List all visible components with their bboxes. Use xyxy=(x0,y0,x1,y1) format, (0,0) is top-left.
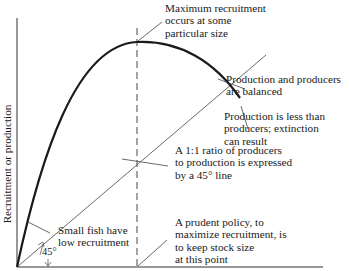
leader-small-fish xyxy=(28,222,50,233)
annotation-prudent-policy: A prudent policy, to maximize recruitmen… xyxy=(175,216,287,266)
annotation-small-fish: Small fish have low recruitment xyxy=(58,224,129,249)
leader-ratio xyxy=(122,159,168,166)
leader-prudent xyxy=(138,240,167,266)
annotation-extinction: Production is less than producers; extin… xyxy=(224,110,325,147)
y-axis-label: Recruitment or production xyxy=(1,99,13,229)
annotation-max-recruitment: Maximum recruitment occurs at some parti… xyxy=(165,2,266,39)
annotation-ratio-line: A 1:1 ratio of producers to production i… xyxy=(175,144,292,181)
annotation-balanced: Production and producers are balanced xyxy=(226,73,341,98)
angle-label: 45° xyxy=(42,246,57,257)
leader-max xyxy=(138,22,162,41)
